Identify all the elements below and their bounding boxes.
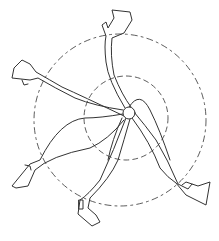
outer-motion-circle	[34, 34, 206, 206]
lower-right-leg	[132, 112, 210, 205]
lower-left-leg	[12, 114, 124, 188]
center-hub	[123, 107, 135, 119]
spinning-figure-diagram	[0, 0, 219, 241]
hub-spoke-a	[129, 99, 170, 160]
left-hand-thumb	[22, 80, 28, 85]
right-foot-strap	[182, 182, 192, 185]
top-arm	[102, 10, 132, 108]
lower-center-leg	[78, 118, 130, 226]
